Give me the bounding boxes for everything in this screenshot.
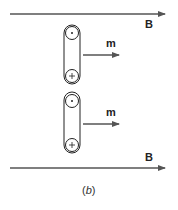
- diagram-canvas: B m m B (b): [0, 0, 178, 210]
- dot-icon: [71, 32, 73, 34]
- field-arrow-top: B: [10, 14, 165, 30]
- current-loop-2: m: [64, 92, 119, 153]
- field-label-top: B: [145, 18, 153, 30]
- figure-caption: (b): [82, 184, 95, 196]
- dot-icon: [71, 100, 73, 102]
- field-arrow-bottom: B: [10, 151, 165, 168]
- moment-label-2: m: [106, 106, 116, 118]
- current-loop-1: m: [64, 25, 119, 84]
- field-label-bottom: B: [145, 151, 153, 163]
- moment-label-1: m: [106, 37, 116, 49]
- caption-close: ): [92, 184, 96, 196]
